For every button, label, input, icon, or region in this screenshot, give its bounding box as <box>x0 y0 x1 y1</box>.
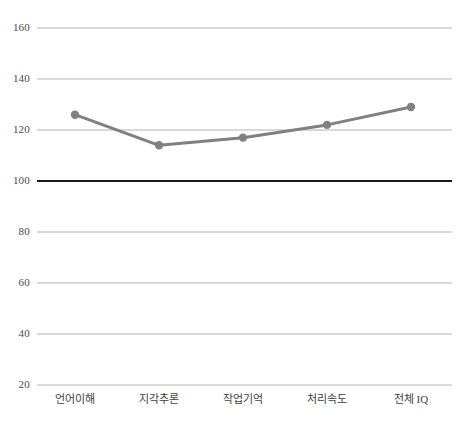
line-chart: 20406080100120140160 언어이해지각추론작업기억처리속도전체 … <box>0 0 463 436</box>
data-point-처리속도 <box>323 121 331 129</box>
y-tick-label-40: 40 <box>2 328 30 339</box>
x-category-label-0: 언어이해 <box>35 393 115 405</box>
data-point-언어이해 <box>71 111 79 119</box>
data-point-전체 IQ <box>407 103 415 111</box>
x-category-label-2: 작업기억 <box>203 393 283 405</box>
y-tick-label-60: 60 <box>2 277 30 288</box>
chart-canvas <box>0 0 463 436</box>
x-category-label-1: 지각추론 <box>119 393 199 405</box>
y-tick-label-80: 80 <box>2 226 30 237</box>
y-tick-label-160: 160 <box>2 22 30 33</box>
y-tick-label-120: 120 <box>2 124 30 135</box>
data-point-작업기억 <box>239 133 247 141</box>
gridlines <box>37 28 452 385</box>
data-point-markers <box>71 103 415 150</box>
y-tick-label-100: 100 <box>2 175 30 186</box>
x-category-label-4: 전체 IQ <box>371 393 451 405</box>
y-tick-label-140: 140 <box>2 73 30 84</box>
y-tick-label-20: 20 <box>2 379 30 390</box>
x-category-label-3: 처리속도 <box>287 393 367 405</box>
data-point-지각추론 <box>155 141 163 149</box>
